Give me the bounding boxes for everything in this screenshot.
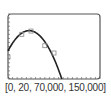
window-settings-label: [0, 20, 70,000, 150,000] xyxy=(0,82,111,93)
plot-area xyxy=(7,13,101,80)
graph-frame xyxy=(8,14,100,79)
calculator-graph-screen xyxy=(7,13,101,80)
